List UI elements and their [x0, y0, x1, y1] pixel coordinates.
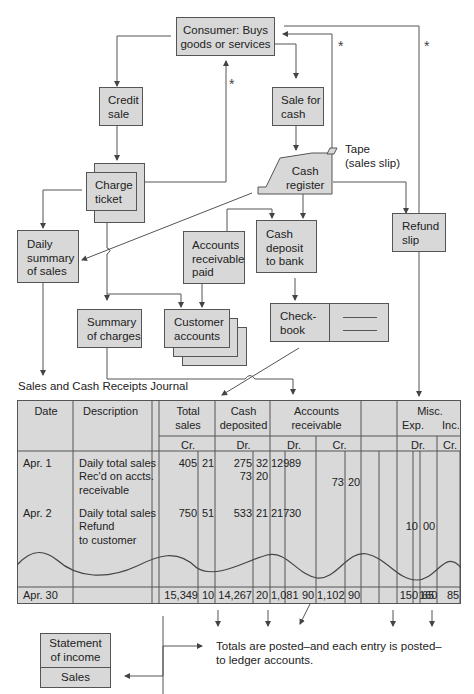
- header-total-sales: Total sales: [160, 405, 216, 432]
- row5-description: Refund: [79, 520, 114, 534]
- header-total-sales-cr: Cr.: [160, 439, 216, 453]
- daily-summary-line-1: Daily: [27, 238, 78, 252]
- totals-cash-dep-cents: 20: [256, 589, 268, 603]
- cash-register-label: Cash register: [286, 165, 324, 192]
- asterisk-refund: *: [424, 38, 429, 54]
- credit-sale-box: Credit sale: [99, 87, 143, 126]
- header-misc-dr: Dr.: [398, 439, 438, 453]
- cash-deposit-line-2: deposit: [266, 242, 316, 256]
- asterisk-tape: *: [338, 38, 343, 54]
- row5-misc-exp-dollars: 10: [398, 520, 418, 534]
- row2-cash-dep-cents: 20: [256, 470, 268, 484]
- sale-for-cash-box: Sale for cash: [272, 87, 324, 126]
- ar-paid-line-3: paid: [192, 266, 244, 280]
- row4-description: Daily total sales: [79, 507, 156, 521]
- totals-misc-inc-dollars-display: 160: [419, 589, 437, 603]
- sale-for-cash-line-1: Sale for: [281, 94, 323, 108]
- row1-ar-dr-cents: 89: [289, 457, 301, 471]
- row4-ar-dr-cents: 30: [289, 507, 301, 521]
- header-misc-exp: Exp.: [402, 419, 424, 433]
- cash-deposit-box: Cash deposit to bank: [256, 220, 317, 273]
- totals-ar-dr-dollars: 1,081: [271, 589, 297, 603]
- customer-accounts-line-1: Customer: [174, 316, 229, 330]
- header-date: Date: [18, 405, 74, 419]
- totals-date: Apr. 30: [23, 589, 58, 603]
- daily-summary-line-3: of sales: [27, 265, 78, 279]
- sale-for-cash-line-2: cash: [281, 108, 323, 122]
- ar-paid-line-2: receivable: [192, 253, 244, 267]
- daily-summary-line-2: summary: [27, 252, 78, 266]
- header-cash-dep-line-1: Cash: [216, 405, 271, 419]
- row4-ar-dr-dollars: 217: [271, 507, 284, 521]
- credit-sale-line-2: sale: [108, 108, 142, 122]
- row1-description: Daily total sales: [79, 457, 156, 471]
- row4-total-sales-dollars: 750: [160, 507, 197, 521]
- accounts-receivable-paid-box: Accounts receivable paid: [183, 231, 245, 284]
- credit-sale-line-1: Credit: [108, 94, 142, 108]
- charge-ticket-box: Charge ticket: [86, 172, 137, 211]
- statement-of-income-box: Statement of income Sales: [40, 633, 111, 688]
- row4-total-sales-cents: 51: [202, 507, 214, 521]
- header-ar-line-1: Accounts: [271, 405, 362, 419]
- row1-ar-dr-dollars: 129: [271, 457, 284, 471]
- customer-accounts-box: Customer accounts: [164, 309, 230, 348]
- row1-total-sales-cents: 21: [202, 457, 214, 471]
- row2-description: Rec'd on accts.: [79, 470, 154, 484]
- row4-date: Apr. 2: [23, 507, 52, 521]
- row6-description: to customer: [79, 534, 136, 548]
- totals-ar-cr-cents: 90: [348, 589, 360, 603]
- row1-total-sales-dollars: 405: [160, 457, 197, 471]
- row2-cash-dep-dollars: 73: [216, 470, 252, 484]
- header-ar-cr: Cr.: [317, 439, 362, 453]
- refund-slip-box: Refund slip: [392, 213, 446, 252]
- posting-footnote: Totals are posted–and each entry is post…: [216, 640, 442, 667]
- statement-title-line-2: of income: [41, 651, 110, 665]
- summary-charges-line-1: Summary: [87, 316, 141, 330]
- header-total-sales-line-1: Total: [160, 405, 216, 419]
- checkbook-line-mark-1: [343, 317, 377, 318]
- summary-charges-line-2: of charges: [87, 330, 141, 344]
- statement-sales: Sales: [41, 671, 110, 685]
- header-description: Description: [83, 405, 138, 419]
- header-ar-line-2: receivable: [271, 419, 362, 433]
- charge-ticket-line-2: ticket: [95, 193, 136, 207]
- summary-of-charges-box: Summary of charges: [77, 309, 142, 348]
- refund-slip-line-1: Refund: [402, 220, 445, 234]
- consumer-box: Consumer: Buys goods or services: [176, 17, 275, 56]
- consumer-line-1: Consumer: Buys: [177, 24, 274, 38]
- row1-cash-dep-cents: 32: [256, 457, 268, 471]
- checkbook-divider: [329, 304, 330, 341]
- header-misc-cr: Cr.: [438, 439, 462, 453]
- totals-cash-dep-dollars: 14,267: [216, 589, 252, 603]
- totals-ar-cr-dollars: 1,102: [317, 589, 343, 603]
- tape-label: Tape (sales slip): [345, 143, 400, 170]
- refund-slip-line-2: slip: [402, 234, 445, 248]
- totals-total-sales-cents: 10: [202, 589, 214, 603]
- row4-cash-dep-dollars: 533: [216, 507, 252, 521]
- row2-ar-cr-dollars: 73: [317, 476, 344, 490]
- statement-title-line-1: Statement: [41, 637, 110, 651]
- journal-title: Sales and Cash Receipts Journal: [18, 380, 188, 394]
- header-cash-deposited-dr: Dr.: [216, 439, 271, 453]
- checkbook-box: Check- book: [270, 303, 389, 342]
- cash-register-line-1: Cash: [286, 165, 324, 179]
- footnote-line-1: Totals are posted–and each entry is post…: [216, 640, 442, 654]
- footnote-line-2: to ledger accounts.: [216, 654, 442, 668]
- cash-deposit-line-3: to bank: [266, 255, 316, 269]
- totals-total-sales-dollars: 15,349: [160, 589, 198, 603]
- header-misc-inc: Inc.: [442, 419, 460, 433]
- ar-paid-line-1: Accounts: [192, 239, 244, 253]
- row3-description: receivable: [79, 484, 129, 498]
- sales-cash-receipts-journal: Date Description Total sales Cr. Cash de…: [17, 400, 461, 604]
- header-cash-dep-line-2: deposited: [216, 419, 271, 433]
- consumer-line-2: goods or services: [177, 38, 274, 52]
- header-misc: Misc.: [398, 405, 462, 419]
- customer-accounts-line-2: accounts: [174, 330, 229, 344]
- row2-ar-cr-cents: 20: [348, 476, 360, 490]
- row1-cash-dep-dollars: 275: [216, 457, 252, 471]
- totals-misc-inc-cents-display: 85: [447, 589, 459, 603]
- cash-deposit-line-1: Cash: [266, 228, 316, 242]
- row4-cash-dep-cents: 21: [256, 507, 268, 521]
- checkbook-line-mark-2: [343, 330, 377, 331]
- tape-line-2: (sales slip): [345, 157, 400, 171]
